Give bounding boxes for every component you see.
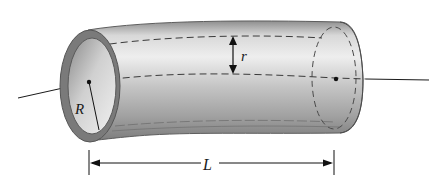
length-label: L bbox=[202, 156, 212, 173]
left-end-inner-opening bbox=[68, 38, 116, 134]
outer-radius-label: R bbox=[74, 101, 84, 117]
arrowhead-left-icon bbox=[90, 160, 100, 167]
inner-radius-label: r bbox=[241, 48, 247, 64]
axis-line-right bbox=[366, 79, 429, 80]
diagram-canvas: R r L bbox=[0, 0, 443, 190]
tube-body bbox=[88, 21, 363, 141]
tube-diagram: R r L bbox=[0, 0, 443, 190]
right-center-point bbox=[334, 77, 338, 81]
arrowhead-right-icon bbox=[323, 160, 333, 167]
